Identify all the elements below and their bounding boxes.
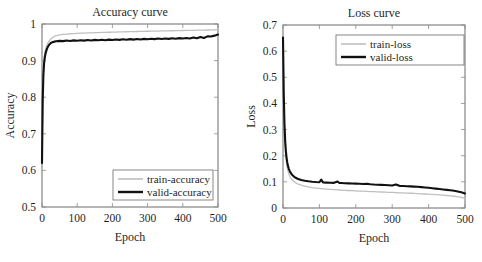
legend-label-valid-accuracy: valid-accuracy [147,186,212,198]
legend-label-valid-loss: valid-loss [370,51,413,63]
y-tick-label: 1 [30,18,36,30]
y-tick-label: 0.6 [22,164,37,176]
x-axis-title: Epoch [115,230,146,244]
x-tick-label: 300 [139,212,157,224]
y-tick-label: 0.3 [263,124,278,136]
x-tick-label: 0 [280,213,286,225]
x-axis-title: Epoch [359,231,390,245]
accuracy-chart-svg: Accuracy curve01002003004005000.50.60.70… [0,0,241,262]
y-axis-title: Accuracy [3,93,17,139]
x-tick-label: 500 [209,212,227,224]
series-line-valid-accuracy [42,35,218,164]
x-tick-label: 500 [456,213,474,225]
y-tick-label: 0.9 [22,55,37,67]
y-tick-label: 0 [271,202,277,214]
accuracy-chart-root: Accuracy curve01002003004005000.50.60.70… [3,5,227,244]
x-tick-label: 400 [420,213,438,225]
loss-chart-panel: Loss curve010020030040050000.10.20.30.40… [241,0,482,262]
y-tick-label: 0.1 [263,176,278,188]
x-tick-label: 0 [39,212,45,224]
chart-title: Loss curve [348,6,400,20]
accuracy-chart-panel: Accuracy curve01002003004005000.50.60.70… [0,0,241,262]
y-tick-label: 0.8 [22,91,37,103]
loss-chart-svg: Loss curve010020030040050000.10.20.30.40… [241,0,482,262]
chart-title: Accuracy curve [92,5,168,19]
x-tick-label: 300 [384,213,402,225]
series-line-train-accuracy [42,30,218,163]
x-tick-label: 400 [174,212,192,224]
y-tick-label: 0.5 [263,71,278,83]
figure-container: Accuracy curve01002003004005000.50.60.70… [0,0,482,262]
x-tick-label: 100 [69,212,87,224]
loss-chart-root: Loss curve010020030040050000.10.20.30.40… [244,6,474,245]
y-tick-label: 0.6 [263,45,278,57]
y-tick-label: 0.2 [263,150,278,162]
x-tick-label: 200 [347,213,365,225]
x-tick-label: 100 [311,213,329,225]
x-tick-label: 200 [104,212,122,224]
y-tick-label: 0.7 [22,128,37,140]
legend-label-train-loss: train-loss [370,38,411,50]
legend-label-train-accuracy: train-accuracy [147,173,210,185]
y-tick-label: 0.5 [22,201,37,213]
y-axis-title: Loss [244,105,258,128]
y-tick-label: 0.7 [263,19,278,31]
y-tick-label: 0.4 [263,97,278,109]
